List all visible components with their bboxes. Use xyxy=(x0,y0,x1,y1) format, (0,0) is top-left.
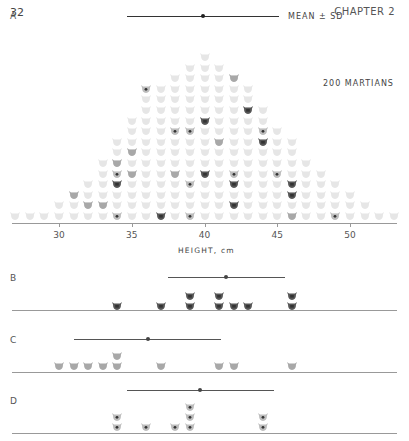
martian-icon xyxy=(24,206,36,216)
martian-icon-highlighted xyxy=(140,79,152,89)
martian-icon-highlighted xyxy=(155,206,167,216)
martian-icon xyxy=(315,164,327,174)
martian-icon xyxy=(242,79,254,89)
panel-d-baseline xyxy=(12,433,397,434)
martian-icon xyxy=(155,356,167,366)
martian-icon xyxy=(169,417,181,427)
martian-icon-highlighted xyxy=(257,121,269,131)
martian-icon-highlighted xyxy=(126,164,138,174)
martian-icon-highlighted xyxy=(199,164,211,174)
x-tick xyxy=(205,223,206,227)
martian-icon xyxy=(111,407,123,417)
martian-icon xyxy=(228,356,240,366)
martian-icon-highlighted xyxy=(82,195,94,205)
martian-icon xyxy=(126,111,138,121)
martian-icon-highlighted xyxy=(286,206,298,216)
martian-icon xyxy=(169,68,181,78)
martian-icon xyxy=(242,296,254,306)
martian-icon xyxy=(9,206,21,216)
martian-icon xyxy=(38,206,50,216)
martian-icon xyxy=(82,174,94,184)
x-tick xyxy=(277,223,278,227)
martian-icon xyxy=(155,296,167,306)
panel-c-mean-dot xyxy=(146,337,150,341)
martian-icon-highlighted xyxy=(169,164,181,174)
martian-icon xyxy=(286,356,298,366)
martian-icon xyxy=(68,356,80,366)
martian-icon xyxy=(53,195,65,205)
x-tick xyxy=(132,223,133,227)
martian-icon xyxy=(97,356,109,366)
martian-icon xyxy=(111,132,123,142)
martian-icon xyxy=(213,286,225,296)
martian-icon xyxy=(213,356,225,366)
martian-icon-highlighted xyxy=(199,111,211,121)
martian-icon-highlighted xyxy=(111,206,123,216)
panel-b-baseline xyxy=(12,310,397,311)
x-tick xyxy=(350,223,351,227)
martian-icon-highlighted xyxy=(184,174,196,184)
martian-icon-highlighted xyxy=(286,185,298,195)
martian-icon-highlighted xyxy=(228,195,240,205)
martian-icon-highlighted xyxy=(184,206,196,216)
martian-icon-highlighted xyxy=(329,206,341,216)
martian-icon xyxy=(155,79,167,89)
martian-icon xyxy=(300,153,312,163)
martian-icon-highlighted xyxy=(242,100,254,110)
martian-icon xyxy=(388,206,400,216)
martian-icon xyxy=(199,47,211,57)
x-tick-label: 35 xyxy=(117,230,147,240)
martian-icon-highlighted xyxy=(126,142,138,152)
martian-icon xyxy=(184,58,196,68)
martian-icon xyxy=(213,58,225,68)
martian-icon-highlighted xyxy=(111,153,123,163)
panel-d-label: D xyxy=(10,396,17,406)
martian-icon xyxy=(111,296,123,306)
x-tick-label: 45 xyxy=(262,230,292,240)
x-tick-label: 30 xyxy=(44,230,74,240)
martian-icon xyxy=(82,356,94,366)
panel-b-mean-dot xyxy=(224,275,228,279)
martian-icon xyxy=(53,356,65,366)
martian-icon-highlighted xyxy=(97,195,109,205)
martian-icon-highlighted xyxy=(68,185,80,195)
panel-c-label: C xyxy=(10,335,16,345)
martian-icon-highlighted xyxy=(213,132,225,142)
panel-b-label: B xyxy=(10,273,16,283)
x-axis-label: HEIGHT, cm xyxy=(178,246,235,255)
martian-icon xyxy=(184,397,196,407)
martian-icon-highlighted xyxy=(257,132,269,142)
martian-icon xyxy=(329,174,341,184)
martian-icon xyxy=(271,121,283,131)
martian-icon xyxy=(286,132,298,142)
martian-icon-highlighted xyxy=(228,164,240,174)
martian-icon-highlighted xyxy=(169,121,181,131)
population-histogram xyxy=(0,0,409,225)
martian-icon xyxy=(286,286,298,296)
panel-d-mean-dot xyxy=(198,388,202,392)
martian-icon-highlighted xyxy=(286,174,298,184)
panel-c-baseline xyxy=(12,372,397,373)
martian-icon-highlighted xyxy=(228,68,240,78)
martian-icon xyxy=(111,346,123,356)
martian-icon-highlighted xyxy=(184,121,196,131)
martian-icon xyxy=(97,153,109,163)
martian-icon xyxy=(344,185,356,195)
martian-icon xyxy=(228,296,240,306)
martian-icon xyxy=(140,417,152,427)
martian-icon xyxy=(257,407,269,417)
martian-icon xyxy=(359,195,371,205)
martian-icon xyxy=(373,206,385,216)
x-tick xyxy=(59,223,60,227)
x-tick-label: 50 xyxy=(335,230,365,240)
martian-icon-highlighted xyxy=(271,164,283,174)
martian-icon xyxy=(184,286,196,296)
x-tick-label: 40 xyxy=(190,230,220,240)
martian-icon xyxy=(257,100,269,110)
